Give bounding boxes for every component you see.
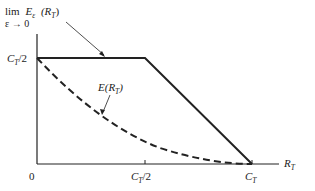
y-tick-label: CT/2: [7, 52, 27, 67]
rate-error-diagram: lim Eε (RT) ε → 0 CT/2 E(RT) 0 CT/2 CT R…: [0, 0, 315, 191]
x-tick-full-label: CT: [245, 170, 257, 185]
x-axis-label: RT: [283, 157, 296, 172]
x-origin-label: 0: [29, 170, 35, 182]
e-curve-label: E(RT): [97, 81, 123, 96]
arrowhead-icon: [100, 109, 105, 115]
limit-label-arrow: [66, 22, 104, 55]
x-tick-half-label: CT/2: [131, 170, 151, 185]
limit-curve: [37, 58, 252, 164]
e-label-arrow: [103, 95, 110, 112]
limit-subscript: ε → 0: [5, 18, 29, 29]
e-curve-dashed: [37, 58, 252, 164]
